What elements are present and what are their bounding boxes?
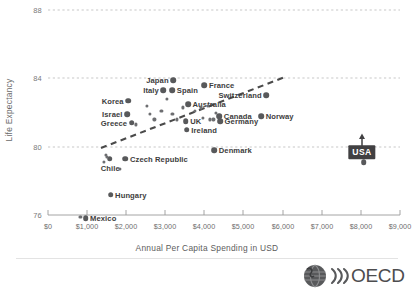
x-tick-label-0: $0 [44,222,52,231]
y-tick-label-88: 88 [18,6,42,15]
y-axis-title: Life Expectancy [4,70,14,150]
data-point [199,106,202,109]
data-point-australia [185,101,191,107]
data-point-label-denmark: Denmark [219,146,252,155]
data-point [181,106,184,109]
data-point [145,104,148,107]
oecd-wordmark: OECD [351,265,405,287]
x-tick-label-3000: $3,000 [154,222,177,231]
data-point-label-ireland: Ireland [191,125,217,134]
oecd-logo: OECD [303,264,405,288]
data-point-label-mexico: Mexico [90,214,116,223]
y-tick-label-80: 80 [18,143,42,152]
data-point [165,97,168,100]
x-tick-label-1000: $1,000 [76,222,99,231]
data-point-czech-republic [123,156,129,162]
x-tick-label-9000: $9,000 [389,222,412,231]
data-point-france [202,82,208,88]
data-point-label-hungary: Hungary [115,190,147,199]
data-point-label-japan: Japan [146,76,168,85]
data-point-label-germany: Germany [225,117,259,126]
data-point [212,118,215,121]
data-point-label-france: France [209,81,235,90]
data-point-label-czech-republic: Czech Republic [130,154,188,163]
data-point-germany [217,118,223,124]
data-point [148,113,151,116]
data-point-italy [161,87,167,93]
data-point-japan [170,77,176,83]
data-point-label-greece: Greece [101,118,127,127]
data-point [193,109,196,112]
chart-container: 88 84 80 76 $0 $1,000 $2,000 $3,000 $4,0… [0,0,414,294]
x-tick-label-8000: $8,000 [350,222,373,231]
x-tick-label-6000: $6,000 [272,222,295,231]
data-point [160,109,163,112]
x-tick-label-5000: $5,000 [232,222,255,231]
data-point [79,215,82,218]
data-point [171,113,174,116]
x-tick-label-7000: $7,000 [311,222,334,231]
x-tick-label-2000: $2,000 [115,222,138,231]
usa-callout-label: USA [348,145,375,159]
globe-icon [303,264,327,288]
footer-divider [16,258,398,259]
data-point-mexico [83,216,89,222]
data-point-switzerland [263,93,269,99]
data-point-label-korea: Korea [102,96,124,105]
data-point [134,123,137,126]
data-point-hungary [108,192,114,198]
data-point-norway [258,113,264,119]
x-axis-title: Annual Per Capita Spending in USD [0,243,414,253]
data-point-korea [125,98,131,104]
y-tick-label-84: 84 [18,74,42,83]
data-point-spain [170,87,176,93]
data-point-denmark [211,147,217,153]
data-point-label-norway: Norway [266,111,294,120]
data-point [118,167,121,170]
data-point [175,118,178,121]
x-tick-label-4000: $4,000 [193,222,216,231]
data-point-ireland [184,127,190,133]
data-point-israel [124,111,130,117]
data-point-uk [183,118,189,124]
data-point [153,118,156,121]
waves-icon [329,264,349,288]
data-point-usa [361,159,367,165]
data-point-label-italy: Italy [143,86,159,95]
data-point-label-spain: Spain [177,86,198,95]
data-point [201,116,204,119]
data-point-label-australia: Australia [193,99,226,108]
y-tick-label-76: 76 [18,211,42,220]
usa-callout-arrow [359,134,365,147]
